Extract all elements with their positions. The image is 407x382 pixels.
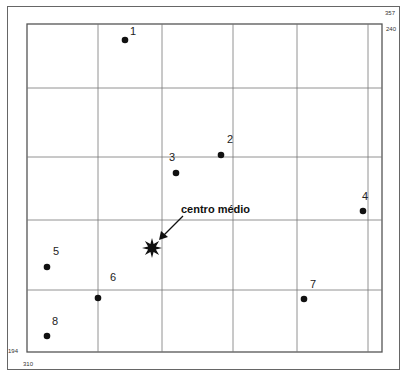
point-label-4: 4 [362, 191, 368, 202]
centro-medio-star-icon [142, 238, 162, 258]
point-label-5: 5 [53, 246, 59, 257]
centro-medio-label: centro médio [181, 204, 250, 215]
data-point [360, 208, 367, 215]
point-label-8: 8 [52, 316, 58, 327]
data-point [44, 264, 51, 271]
corner-label-top-right-upper: 357 [385, 10, 395, 16]
corner-label-top-right-lower: 240 [386, 26, 396, 32]
grid-plot [0, 0, 407, 382]
point-label-2: 2 [227, 134, 233, 145]
data-point [301, 296, 308, 303]
corner-label-bottom-left-lower: 310 [23, 361, 33, 367]
data-point [218, 152, 225, 159]
point-label-6: 6 [110, 272, 116, 283]
data-point [44, 333, 51, 340]
point-label-1: 1 [130, 26, 136, 37]
grid-border [27, 24, 382, 352]
point-label-7: 7 [310, 279, 316, 290]
arrow-shaft [163, 216, 183, 236]
point-label-3: 3 [169, 152, 175, 163]
data-point [122, 37, 129, 44]
data-point [95, 295, 102, 302]
data-point [173, 170, 180, 177]
corner-label-bottom-left-upper: 194 [8, 348, 18, 354]
